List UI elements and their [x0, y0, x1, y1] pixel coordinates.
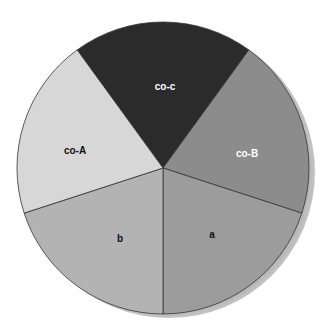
slice-label-co-A: co-A: [64, 145, 86, 156]
slice-label-a: a: [209, 229, 215, 240]
pie-slices: [17, 22, 309, 314]
slice-label-co-c: co-c: [155, 81, 176, 92]
slice-label-b: b: [117, 233, 123, 244]
pie-chart: co-c co-B a b co-A: [0, 0, 330, 335]
slice-label-co-B: co-B: [236, 148, 258, 159]
